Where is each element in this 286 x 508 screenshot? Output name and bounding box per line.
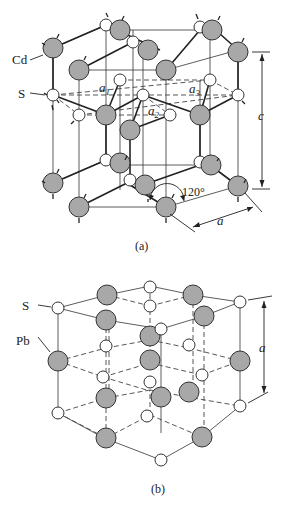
label-pb: Pb — [16, 333, 30, 348]
figure-b-cubic-pbs: S Pb a (b) — [16, 281, 272, 496]
caption-a: (a) — [135, 239, 148, 253]
label-s-b: S — [22, 298, 29, 313]
caption-b: (b) — [151, 482, 165, 496]
label-c: c — [258, 108, 264, 123]
label-a-b: a — [259, 340, 266, 355]
label-s-a: S — [18, 86, 25, 101]
label-a1: a1 — [99, 80, 110, 97]
label-cd: Cd — [12, 52, 28, 67]
label-120-degrees: 120° — [182, 185, 205, 199]
crystal-structure-figure: Cd S a1 a2 a3 c 120° a (a) — [0, 0, 286, 508]
label-a-dim: a — [217, 213, 224, 228]
s-atoms-b — [52, 281, 246, 466]
figure-a-hexagonal-cds: Cd S a1 a2 a3 c 120° a (a) — [12, 13, 270, 253]
label-a3: a3 — [189, 81, 201, 98]
